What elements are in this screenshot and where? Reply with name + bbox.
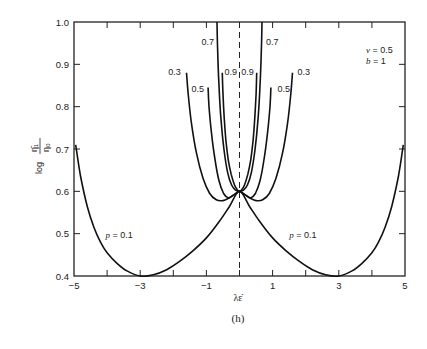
- curve-label: p = 0.1: [288, 230, 316, 240]
- curve-label: p = 0.1: [104, 230, 132, 240]
- axis-tick-labels: −5−3−11350.40.50.60.70.80.91.0: [56, 17, 408, 292]
- curve-label: 0.7: [201, 37, 214, 47]
- curve-label: 0.7: [266, 37, 279, 47]
- curve-label: 0.3: [297, 67, 310, 77]
- x-tick-label: −5: [69, 280, 80, 291]
- chart: −5−3−11350.40.50.60.70.80.91.0 0.70.70.3…: [0, 0, 427, 349]
- figure-caption: (h): [232, 312, 245, 325]
- b-value: = 1: [371, 56, 386, 66]
- x-tick-label: 3: [336, 280, 341, 291]
- y-axis-label: log: [34, 162, 44, 174]
- nu-value: = 0.5: [370, 45, 393, 55]
- y-tick-label: 1.0: [56, 17, 69, 28]
- y-tick-label: 0.9: [56, 59, 69, 70]
- curve-label: 0.5: [278, 84, 291, 94]
- y-tick-label: 0.8: [56, 101, 69, 112]
- y-tick-label: 0.5: [56, 228, 69, 239]
- b-annotation: b = 1: [366, 56, 386, 66]
- x-axis-label: λε̇: [233, 292, 243, 303]
- y-tick-label: 0.4: [56, 271, 69, 282]
- curve-label: 0.9: [225, 67, 238, 77]
- y-tick-label: 0.6: [56, 186, 69, 197]
- y-axis-label-group: logη̄₁η₀: [29, 138, 51, 174]
- y-axis-label-denominator: η₀: [41, 143, 51, 152]
- curve-label: 0.3: [168, 67, 181, 77]
- x-tick-label: 5: [402, 280, 407, 291]
- curve-label: 0.5: [192, 84, 205, 94]
- x-tick-label: −3: [135, 280, 146, 291]
- x-tick-label: 1: [270, 280, 275, 291]
- curve-label: 0.9: [241, 67, 254, 77]
- y-tick-label: 0.7: [56, 144, 69, 155]
- nu-annotation: ν = 0.5: [366, 45, 393, 55]
- x-tick-label: −1: [201, 280, 212, 291]
- y-axis-label-numerator: η̄₁: [29, 144, 39, 152]
